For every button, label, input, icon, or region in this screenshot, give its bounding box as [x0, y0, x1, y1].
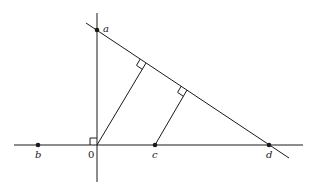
diagram-canvas: a b 0 c d: [0, 0, 314, 186]
right-angle-marker-origin: [90, 138, 97, 145]
point-d: [267, 143, 272, 148]
perpendicular-from-c: [155, 90, 187, 145]
label-a: a: [103, 24, 109, 34]
perpendicular-from-origin: [97, 63, 146, 145]
right-angle-marker-foot-1: [137, 59, 143, 69]
point-b: [36, 143, 41, 148]
label-b: b: [35, 150, 41, 160]
point-a: [95, 28, 100, 33]
label-d: d: [266, 150, 272, 160]
point-c: [153, 143, 158, 148]
label-origin: 0: [88, 150, 94, 160]
line-ad: [86, 23, 289, 158]
label-c: c: [152, 150, 158, 160]
